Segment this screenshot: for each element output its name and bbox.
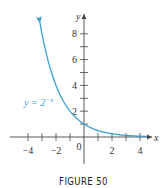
y-tick-label-6: 6 — [72, 54, 77, 65]
curve-label-exponent: −x — [45, 96, 54, 104]
curve-equation-label: y = 2−x — [23, 96, 54, 108]
exponential-decay-graph: −4 −2 0 2 4 x 2 4 6 8 y y = 2−x — [0, 0, 167, 188]
x-tick-label-4: 4 — [138, 145, 143, 156]
figure-caption: FIGURE 50 — [13, 176, 155, 187]
x-axis-label: x — [153, 132, 159, 143]
x-tick-label-neg4: −4 — [23, 145, 34, 156]
y-tick-label-8: 8 — [72, 28, 77, 39]
x-tick-label-neg2: −2 — [51, 145, 62, 156]
y-tick-label-4: 4 — [72, 80, 77, 91]
exponential-curve — [40, 22, 147, 136]
x-tick-label-2: 2 — [110, 145, 115, 156]
origin-label: 0 — [77, 141, 82, 152]
curve-label-base: y = 2 — [23, 97, 45, 108]
y-axis-label: y — [75, 11, 81, 22]
